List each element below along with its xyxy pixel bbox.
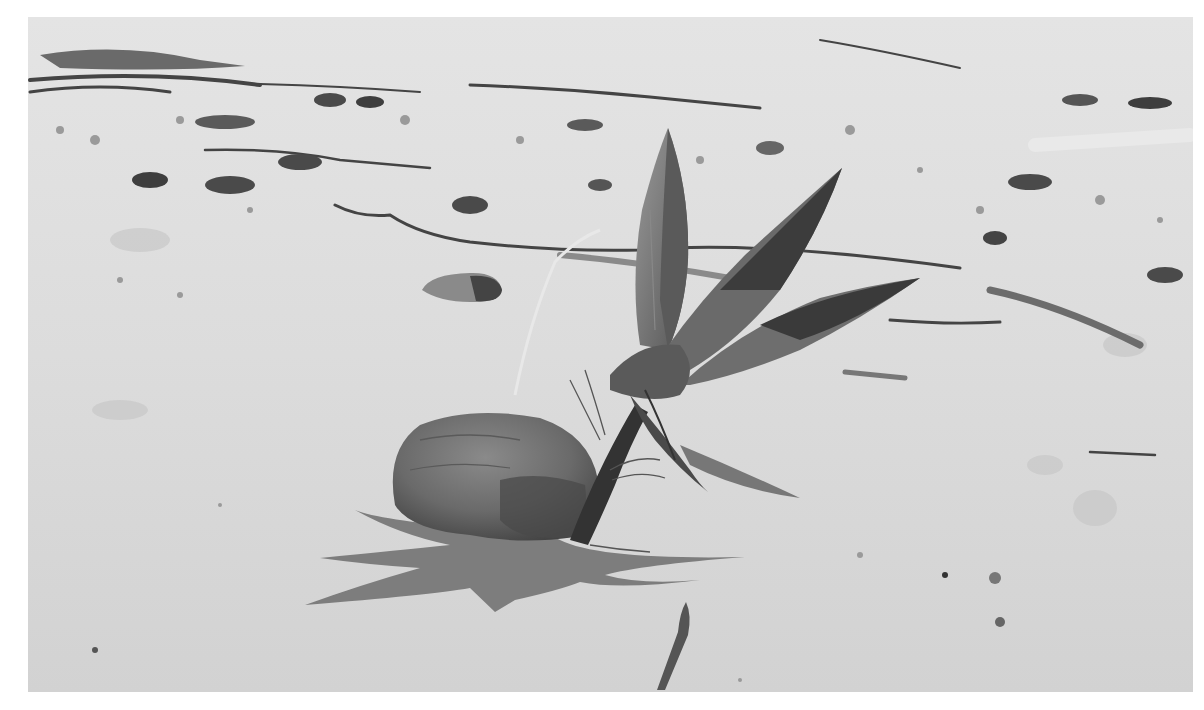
beach-scene <box>28 17 1193 692</box>
beach-photo <box>28 17 1193 692</box>
photo-frame <box>0 0 1204 710</box>
